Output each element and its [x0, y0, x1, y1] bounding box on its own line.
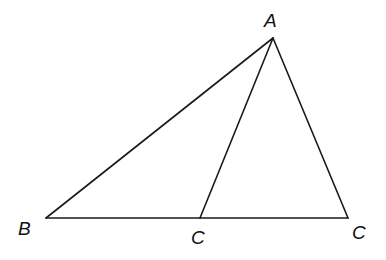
segment-a-c-mid	[200, 38, 273, 218]
triangle-diagram: A B C C	[0, 0, 386, 260]
segment-ab	[46, 38, 273, 218]
vertex-label-c-right: C	[352, 222, 366, 243]
vertex-label-c-mid: C	[191, 227, 205, 248]
vertex-label-a: A	[263, 10, 277, 31]
segment-a-c-right	[273, 38, 348, 218]
vertex-label-b: B	[18, 218, 31, 239]
